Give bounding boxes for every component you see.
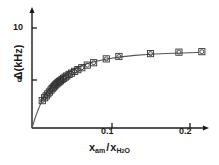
marker-circle xyxy=(149,52,153,56)
x-axis-title: xam/xH2O xyxy=(0,141,219,154)
y-axis-title: Δ(kHz) xyxy=(12,30,24,94)
y-axis-ticks xyxy=(32,28,37,80)
x-tick-label-0-2: 0.2 xyxy=(179,126,192,136)
y-axis-units: (kHz) xyxy=(12,45,24,72)
data-point-marker xyxy=(116,53,122,59)
marker-circle xyxy=(200,50,204,54)
axis-lines xyxy=(29,7,209,131)
data-point-marker xyxy=(91,60,97,66)
x-axis-denominator-subscript-o: O xyxy=(125,147,130,154)
y-axis-arrowhead xyxy=(29,7,34,13)
x-axis-arrowhead xyxy=(203,125,209,130)
x-tick-label-0-1: 0.1 xyxy=(101,126,114,136)
data-point-series xyxy=(39,49,205,104)
fit-curve xyxy=(32,53,198,128)
data-point-marker xyxy=(176,49,182,55)
x-axis-numerator-subscript: am xyxy=(95,147,105,154)
data-point-marker xyxy=(199,49,205,55)
fit-curve-line xyxy=(32,53,198,128)
data-point-marker xyxy=(147,51,153,57)
marker-circle xyxy=(80,66,84,70)
plot-figure: 10 5 0.1 0.2 Δ(kHz) xam/xH2O xyxy=(0,0,219,165)
y-axis-symbol: Δ xyxy=(12,72,24,80)
